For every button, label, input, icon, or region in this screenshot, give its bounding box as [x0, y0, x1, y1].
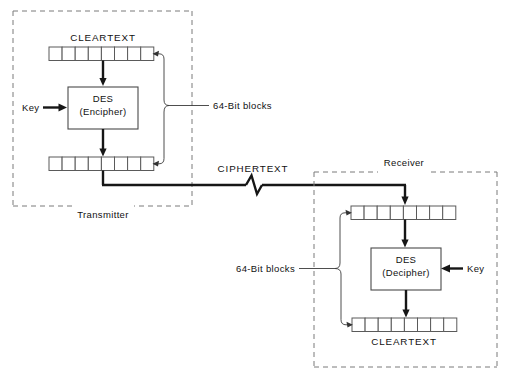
transmitter-output-register [49, 157, 154, 171]
diagram-canvas: CLEARTEXT DES (Encipher) Key [0, 0, 507, 379]
transmitter-des-box: DES (Encipher) [68, 87, 138, 129]
receiver-key-input: Key [441, 263, 484, 274]
transmitter-des-title: DES [93, 93, 113, 104]
receiver-block-size-label: 64-Bit blocks [236, 263, 295, 274]
transmitter-cleartext-label: CLEARTEXT [70, 32, 136, 43]
receiver-block-size-brace: 64-Bit blocks [236, 210, 353, 328]
receiver-des-title: DES [396, 254, 416, 265]
des-block-diagram: CLEARTEXT DES (Encipher) Key [0, 0, 507, 379]
receiver-caption-mask [378, 168, 430, 177]
transmitter-des-subtitle: (Encipher) [80, 106, 127, 117]
receiver-cleartext-label: CLEARTEXT [371, 336, 437, 347]
transmitter-key-input: Key [22, 102, 67, 113]
receiver-input-to-des-arrow [401, 220, 408, 248]
receiver-boundary-label: Receiver [384, 157, 424, 168]
receiver-des-to-output-arrow [402, 290, 409, 318]
transmitter-block-size-label: 64-Bit blocks [213, 100, 272, 111]
receiver-des-subtitle: (Decipher) [382, 267, 429, 278]
receiver-key-label: Key [467, 263, 484, 274]
transmitter-des-to-output-arrow [99, 129, 106, 157]
transmitter-input-to-des-arrow [99, 61, 106, 87]
transmitter-input-register [49, 47, 154, 61]
receiver-output-register [352, 318, 457, 332]
receiver-des-box: DES (Decipher) [371, 248, 441, 290]
transmitter-key-label: Key [22, 102, 39, 113]
transmitter-boundary-label: Transmitter [77, 209, 129, 220]
transmitter-block-size-brace: 64-Bit blocks [153, 51, 272, 167]
receiver-input-register [351, 206, 456, 220]
ciphertext-label: CIPHERTEXT [218, 163, 289, 174]
